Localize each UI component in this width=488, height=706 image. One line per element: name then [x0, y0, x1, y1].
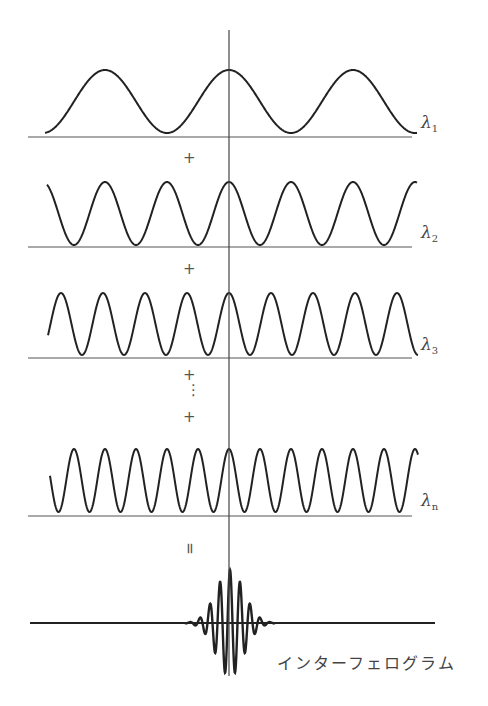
interferogram-diagram — [0, 0, 488, 706]
cosine-wave-4 — [50, 449, 418, 512]
cosine-wave-2 — [47, 182, 417, 245]
wave-label-1: λ1 — [421, 112, 438, 134]
cosine-wave-3 — [48, 293, 418, 355]
equals-sign: = — [182, 542, 197, 555]
plus-sign-4: + — [183, 410, 196, 425]
wave-label-n: λn — [421, 490, 438, 512]
cosine-wave-1 — [45, 70, 417, 133]
wave-label-3: λ3 — [421, 334, 438, 356]
cosine-waves — [45, 70, 418, 512]
plus-sign-2: + — [183, 262, 196, 277]
interferogram-burst — [185, 570, 275, 673]
interferogram-caption: インターフェログラム — [277, 650, 456, 674]
wave-label-2: λ2 — [421, 222, 438, 244]
vertical-ellipsis: ⋮ — [186, 383, 201, 398]
plus-sign-1: + — [183, 151, 196, 166]
